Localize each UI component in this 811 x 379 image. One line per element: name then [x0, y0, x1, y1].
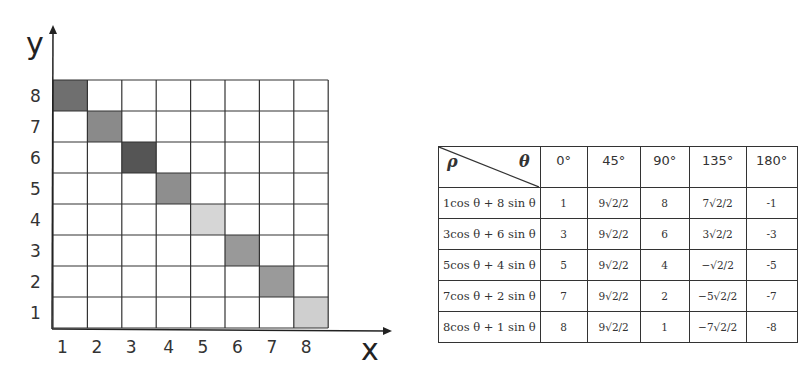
- cell: -3: [746, 219, 797, 250]
- shaded-cell: [87, 111, 121, 142]
- cell: 3: [540, 219, 587, 250]
- x-tick-label: 5: [198, 337, 209, 357]
- y-axis-label: y: [26, 26, 44, 61]
- x-axis: [52, 329, 388, 331]
- y-tick-label: 3: [30, 241, 41, 261]
- table-row: 1cos θ + 8 sin θ 1 9√2/2 8 7√2/2 -1: [439, 188, 798, 219]
- rho-label: ρ: [447, 152, 458, 171]
- shaded-cell: [294, 297, 328, 328]
- cell: 2: [640, 281, 689, 312]
- cell: 9√2/2: [587, 250, 640, 281]
- cell: -7: [746, 281, 797, 312]
- cell: 3√2/2: [689, 219, 746, 250]
- x-tick-label: 4: [163, 337, 174, 357]
- y-tick-label: 8: [30, 86, 41, 106]
- header-45: 45°: [587, 147, 640, 188]
- cell: 8: [640, 188, 689, 219]
- cell: 9√2/2: [587, 281, 640, 312]
- cell: 5: [540, 250, 587, 281]
- cell: −√2/2: [689, 250, 746, 281]
- row-expression: 7cos θ + 2 sin θ: [439, 281, 541, 312]
- x-tick-label: 7: [266, 337, 277, 357]
- rho-theta-table: ρ θ 0° 45° 90° 135° 180° 1cos θ + 8 sin …: [438, 146, 798, 343]
- table-row: 7cos θ + 2 sin θ 7 9√2/2 2 −5√2/2 -7: [439, 281, 798, 312]
- table-header-row: ρ θ 0° 45° 90° 135° 180°: [439, 147, 798, 188]
- y-axis: [52, 30, 53, 329]
- y-axis-arrow-icon: [49, 25, 57, 34]
- grid-diagram: y x 12345678 12345678: [0, 0, 420, 379]
- table-row: 5cos θ + 4 sin θ 5 9√2/2 4 −√2/2 -5: [439, 250, 798, 281]
- y-tick-label: 5: [30, 179, 41, 199]
- x-tick-label: 1: [57, 337, 68, 357]
- cell: 4: [640, 250, 689, 281]
- cell: 9√2/2: [587, 219, 640, 250]
- shaded-cell: [191, 204, 225, 235]
- cell: -5: [746, 250, 797, 281]
- shaded-cell: [225, 235, 259, 266]
- y-tick-label: 2: [30, 272, 41, 292]
- y-tick-label: 6: [30, 148, 41, 168]
- cell: -8: [746, 312, 797, 343]
- theta-label: θ: [519, 152, 530, 171]
- cell: 1: [640, 312, 689, 343]
- y-tick-labels: 12345678: [30, 86, 41, 323]
- header-135: 135°: [689, 147, 746, 188]
- x-axis-label: x: [361, 332, 379, 367]
- cell: 1: [540, 188, 587, 219]
- x-tick-label: 6: [232, 337, 243, 357]
- header-180: 180°: [746, 147, 797, 188]
- header-0: 0°: [540, 147, 587, 188]
- row-expression: 8cos θ + 1 sin θ: [439, 312, 541, 343]
- cell: 9√2/2: [587, 188, 640, 219]
- cell: 9√2/2: [587, 312, 640, 343]
- table-corner-cell: ρ θ: [439, 147, 541, 188]
- shaded-cell: [122, 142, 156, 173]
- y-tick-label: 7: [30, 117, 41, 137]
- grid-svg: y x 12345678 12345678: [0, 0, 420, 379]
- shaded-cell: [156, 173, 190, 204]
- table-row: 3cos θ + 6 sin θ 3 9√2/2 6 3√2/2 -3: [439, 219, 798, 250]
- x-tick-label: 2: [91, 337, 102, 357]
- header-90: 90°: [640, 147, 689, 188]
- cell: -1: [746, 188, 797, 219]
- x-tick-label: 3: [126, 337, 137, 357]
- x-axis-arrow-icon: [383, 327, 392, 335]
- x-tick-label: 8: [301, 337, 312, 357]
- y-tick-label: 4: [30, 210, 41, 230]
- cell: −5√2/2: [689, 281, 746, 312]
- cell: 7√2/2: [689, 188, 746, 219]
- row-expression: 5cos θ + 4 sin θ: [439, 250, 541, 281]
- row-expression: 3cos θ + 6 sin θ: [439, 219, 541, 250]
- shaded-cell: [259, 266, 293, 297]
- y-tick-label: 1: [30, 303, 41, 323]
- shaded-cell: [53, 80, 87, 111]
- cell: 6: [640, 219, 689, 250]
- cell: −7√2/2: [689, 312, 746, 343]
- table-row: 8cos θ + 1 sin θ 8 9√2/2 1 −7√2/2 -8: [439, 312, 798, 343]
- cell: 7: [540, 281, 587, 312]
- cell: 8: [540, 312, 587, 343]
- row-expression: 1cos θ + 8 sin θ: [439, 188, 541, 219]
- x-tick-labels: 12345678: [57, 337, 312, 357]
